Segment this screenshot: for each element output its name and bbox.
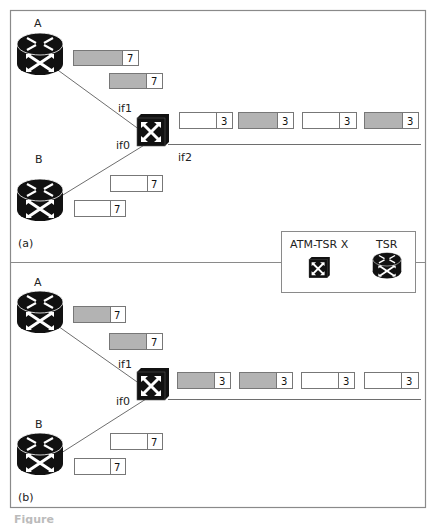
panel-b-tag: (b): [18, 491, 34, 504]
svg-text:7: 7: [114, 310, 120, 321]
svg-text:7: 7: [114, 204, 120, 215]
cell-out-3: 3: [303, 113, 357, 129]
svg-text:3: 3: [281, 376, 287, 387]
cell-from-a-2: 7: [110, 74, 163, 89]
panel-b: A B if1 if0 7 7 7 7: [17, 276, 421, 504]
svg-text:7: 7: [127, 53, 133, 64]
legend: ATM-TSR X TSR: [282, 232, 416, 293]
svg-text:3: 3: [221, 116, 227, 127]
panel-a: A B if1 if0 if2 7 7 7 7: [17, 17, 421, 250]
port-if1-label: if1: [118, 358, 132, 371]
router-a-label: A: [34, 276, 42, 289]
port-if2-label: if2: [178, 151, 192, 164]
router-a-icon: [17, 33, 63, 75]
cell-from-b-2: 7: [75, 201, 126, 217]
svg-text:3: 3: [219, 376, 225, 387]
atm-switch-icon: [137, 368, 169, 400]
cell-from-a-2: 7: [110, 334, 163, 350]
atm-merging-diagram: A B if1 if0 if2 7 7 7 7: [0, 0, 435, 524]
router-a-icon: [17, 291, 63, 333]
legend-tsr-label: TSR: [375, 238, 398, 251]
figure-caption: Figure: [14, 513, 54, 524]
svg-text:3: 3: [343, 376, 349, 387]
svg-text:3: 3: [282, 116, 288, 127]
cell-from-b-1: 7: [111, 176, 163, 192]
cell-out-3: 3: [302, 373, 355, 389]
svg-text:7: 7: [114, 462, 120, 473]
cell-out-2: 3: [239, 113, 294, 129]
port-if0-label: if0: [116, 395, 130, 408]
cell-from-a-1: 7: [74, 307, 126, 323]
svg-text:7: 7: [151, 337, 157, 348]
svg-text:7: 7: [151, 76, 157, 87]
router-b-label: B: [35, 418, 43, 431]
legend-atm-label: ATM-TSR X: [290, 238, 349, 251]
svg-text:7: 7: [151, 437, 157, 448]
svg-text:3: 3: [407, 116, 413, 127]
legend-atm-icon: [309, 257, 330, 278]
cell-from-b-1: 7: [111, 434, 163, 450]
svg-text:7: 7: [151, 179, 157, 190]
cell-out-4: 3: [365, 113, 419, 129]
cell-from-a-1: 7: [74, 51, 139, 66]
port-if0-label: if0: [116, 139, 130, 152]
atm-switch-icon: [137, 114, 169, 146]
port-if1-label: if1: [118, 102, 132, 115]
cell-out-2: 3: [240, 373, 293, 389]
legend-tsr-icon: [373, 252, 402, 278]
router-b-icon: [17, 433, 63, 475]
svg-text:3: 3: [344, 116, 350, 127]
router-a-label: A: [34, 17, 42, 30]
cell-out-4: 3: [365, 373, 419, 389]
cell-out-1: 3: [180, 113, 233, 129]
cell-out-1: 3: [178, 373, 231, 389]
cell-from-b-2: 7: [75, 459, 126, 475]
router-b-icon: [17, 179, 63, 221]
svg-text:3: 3: [406, 376, 412, 387]
router-b-label: B: [35, 153, 43, 166]
panel-a-tag: (a): [18, 237, 33, 250]
